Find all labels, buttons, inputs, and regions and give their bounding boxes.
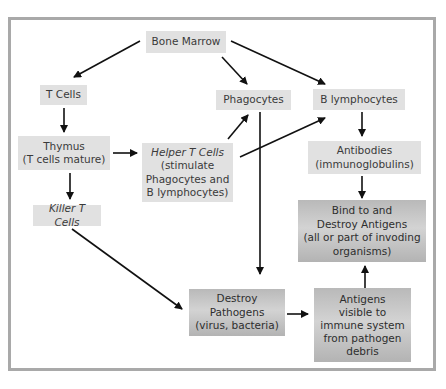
node-label: Antibodies (immunoglobulins) (315, 144, 414, 171)
node-phagocytes: Phagocytes (216, 90, 291, 110)
node-label: Destroy Pathogens (virus, bacteria) (195, 292, 279, 333)
node-label: Phagocytes (223, 93, 284, 107)
node-bone-marrow: Bone Marrow (146, 31, 226, 53)
node-label: B lymphocytes (320, 93, 398, 107)
node-label: Bone Marrow (152, 35, 221, 49)
node-destroy-pathogens: Destroy Pathogens (virus, bacteria) (189, 289, 285, 336)
arrow-helper-phagocytes (228, 115, 248, 139)
node-label: Thymus (T cells mature) (23, 140, 106, 167)
node-antigens-visible: Antigens visible to immune system from p… (314, 288, 411, 362)
node-helper-t-cells: Helper T Cells (stimulate Phagocytes and… (142, 143, 233, 202)
node-label: Antigens visible to immune system from p… (320, 293, 404, 358)
node-title: Helper T Cells (151, 146, 224, 160)
node-t-cells: T Cells (40, 85, 87, 105)
node-detail: (stimulate Phagocytes and B lymphocytes) (146, 159, 230, 200)
arrow-bonemarrow-phagocytes (222, 57, 247, 84)
node-antibodies: Antibodies (immunoglobulins) (308, 141, 421, 174)
arrow-killer-destroy (72, 229, 182, 309)
node-label: Killer T Cells (36, 202, 98, 229)
node-label: T Cells (46, 88, 81, 102)
node-bind-destroy-antigens: Bind to and Destroy Antigens (all or par… (298, 200, 426, 262)
node-b-lymphocytes: B lymphocytes (313, 89, 405, 110)
arrow-bonemarrow-blymph (231, 41, 325, 84)
node-label: Bind to and Destroy Antigens (all or par… (303, 204, 420, 258)
node-killer-t-cells: Killer T Cells (33, 205, 101, 226)
node-thymus: Thymus (T cells mature) (18, 136, 110, 170)
arrow-bonemarrow-tcells (74, 41, 140, 77)
